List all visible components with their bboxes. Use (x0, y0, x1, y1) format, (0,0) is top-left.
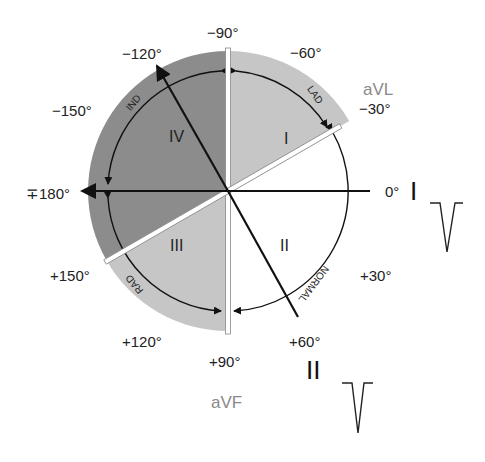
quadrant-label-III: III (170, 238, 183, 254)
lead-label-II: II (306, 357, 320, 383)
axis-diagram (0, 0, 485, 462)
angle-label-plus-30: +30° (360, 268, 391, 283)
lead-label-avl: aVL (363, 81, 393, 98)
lead-label-I: I (410, 178, 417, 204)
angle-label-0: 0° (385, 184, 399, 199)
quadrant-label-IV: IV (169, 129, 184, 145)
angle-label-180: ∓180° (26, 186, 70, 201)
angle-label-plus-150: +150° (50, 268, 90, 283)
angle-label-minus-150: −150° (52, 103, 92, 118)
angle-label-minus-30: −30° (359, 101, 390, 116)
lead-II-waveform (342, 383, 373, 433)
quadrant-label-II: II (280, 238, 289, 254)
lead-label-avf: aVF (211, 394, 242, 411)
lead-II-axis (228, 191, 298, 317)
lead-I-waveform (430, 203, 463, 252)
angle-label-minus-120: −120° (122, 46, 162, 61)
angle-label-plus-120: +120° (122, 334, 162, 349)
angle-label-plus-90: +90° (209, 354, 240, 369)
angle-label-minus-60: −60° (290, 45, 321, 60)
angle-label-plus-60: +60° (289, 334, 320, 349)
quadrant-label-I: I (284, 131, 288, 147)
angle-label-minus-90: −90° (207, 25, 238, 40)
